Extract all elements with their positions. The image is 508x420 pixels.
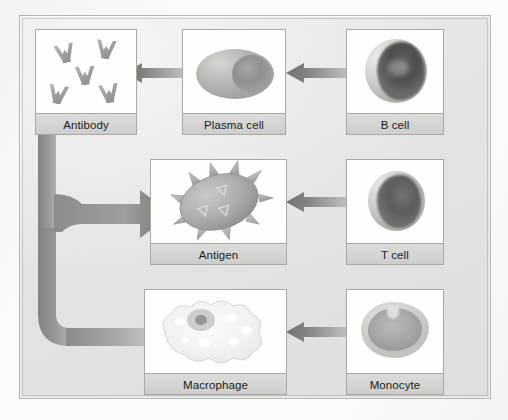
macrophage-icon — [145, 290, 286, 372]
arrow-shaft — [303, 327, 346, 337]
t-cell-icon — [347, 160, 443, 242]
card-t-cell[interactable]: T cell — [346, 159, 444, 265]
antibody-cluster-icon — [36, 30, 136, 112]
arrow-t-cell-to-antigen — [286, 192, 346, 212]
card-monocyte[interactable]: Monocyte — [346, 289, 444, 395]
card-label-antigen: Antigen — [150, 243, 287, 265]
card-macrophage[interactable]: Macrophage — [144, 289, 287, 395]
card-antibody[interactable]: Antibody — [35, 29, 137, 135]
card-label-monocyte: Monocyte — [346, 373, 444, 395]
card-label-antibody: Antibody — [35, 113, 137, 135]
arrow-head — [286, 322, 304, 342]
antigen-spiky-icon — [151, 160, 286, 242]
card-label-macrophage: Macrophage — [144, 373, 287, 395]
card-label-t-cell: T cell — [346, 243, 444, 265]
arrow-shaft — [303, 197, 346, 207]
arrow-shaft — [303, 68, 346, 78]
arrow-b-cell-to-plasma-cell — [286, 63, 346, 83]
arrow-head — [286, 63, 304, 83]
plasma-cell-icon — [183, 30, 285, 112]
arrow-shaft — [141, 68, 182, 78]
card-b-cell[interactable]: B cell — [346, 29, 444, 135]
diagram-page: Antibody Plasma cell B cell — [0, 0, 508, 420]
card-plasma-cell[interactable]: Plasma cell — [182, 29, 286, 135]
b-cell-icon — [347, 30, 443, 112]
arrow-head — [286, 192, 304, 212]
monocyte-icon — [347, 290, 443, 372]
arrow-monocyte-to-macrophage — [286, 322, 346, 342]
card-antigen[interactable]: Antigen — [150, 159, 287, 265]
card-label-plasma-cell: Plasma cell — [182, 113, 286, 135]
card-label-b-cell: B cell — [346, 113, 444, 135]
